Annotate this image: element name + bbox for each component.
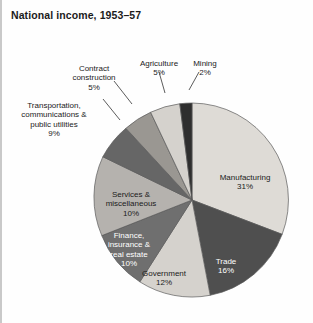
slice-label-transportation-pct: 9% (6, 129, 102, 139)
slice-label-finance-text: Finance, insurance & real estate (108, 231, 150, 259)
slice-label-finance-pct: 10% (98, 259, 160, 269)
slice-label-agriculture-pct: 5% (131, 68, 187, 78)
slice-label-contract-construction-pct: 5% (63, 83, 125, 93)
slice-label-trade-pct: 16% (201, 266, 251, 276)
slice-label-services-text: Services & miscellaneous (106, 190, 157, 209)
slice-label-mining-text: Mining (193, 59, 217, 68)
slice-label-manufacturing: Manufacturing 31% (204, 163, 286, 201)
slice-label-manufacturing-pct: 31% (204, 182, 286, 192)
slice-label-mining: Mining 2% (185, 49, 225, 87)
slice-label-manufacturing-text: Manufacturing (220, 173, 271, 182)
slice-label-transportation-text: Transportation, communications & public … (21, 101, 86, 129)
slice-label-services-pct: 10% (95, 209, 167, 219)
slice-label-agriculture-text: Agriculture (140, 59, 178, 68)
slice-label-contract-construction: Contract construction 5% (63, 54, 125, 102)
slice-label-mining-pct: 2% (185, 68, 225, 78)
chart-page: National income, 1953–57 (0, 0, 313, 323)
slice-label-government-pct: 12% (133, 278, 195, 288)
slice-label-services: Services & miscellaneous 10% (95, 180, 167, 228)
slice-label-agriculture: Agriculture 5% (131, 49, 187, 87)
slice-label-finance: Finance, insurance & real estate 10% (98, 221, 160, 278)
slice-label-trade-text: Trade (216, 257, 237, 266)
slice-label-trade: Trade 16% (201, 247, 251, 285)
slice-label-contract-construction-text: Contract construction (72, 64, 115, 83)
leader-line-transportation (103, 99, 120, 120)
